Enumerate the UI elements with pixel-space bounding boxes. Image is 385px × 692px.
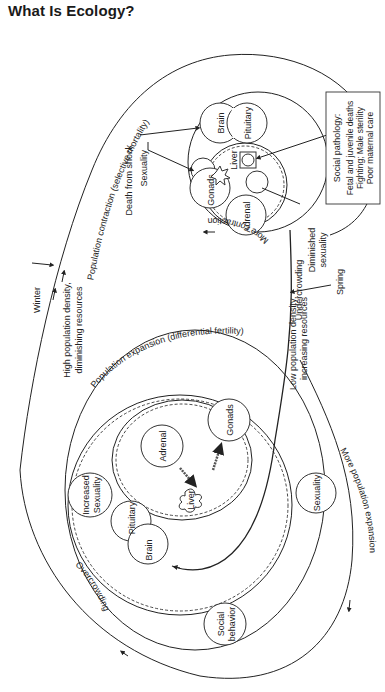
social-pathology-title: Social pathology:	[332, 114, 342, 183]
contraction-brain-pituitary: Brain Pituitary	[200, 103, 267, 143]
liver-label: Liver	[229, 150, 239, 170]
arrow-icon	[349, 600, 350, 610]
liver-to-gonads-arrow	[213, 448, 220, 470]
expansion-brain-label: Brain	[144, 539, 154, 560]
social-pathology-item: Poor maternal care	[365, 112, 375, 185]
diminished-sexuality-label-2: sexuality	[318, 232, 328, 268]
adrenal-to-liver-arrow	[180, 468, 193, 483]
arrow-icon	[122, 652, 128, 656]
expansion-sexuality-label: Sexuality	[312, 474, 322, 511]
sexuality-callout-label: Sexuality	[139, 150, 149, 187]
svg-text:Population expansion (differen: Population expansion (differential ferti…	[89, 325, 244, 389]
pituitary-label: Pituitary	[243, 106, 253, 139]
death-from-shock-pointer	[140, 128, 198, 135]
population-contraction-label: Population contraction (selective mortal…	[85, 117, 151, 280]
brain-label: Brain	[216, 112, 226, 133]
contraction-cycle: Brain Pituitary Gonads Adrenal Liver Dea…	[124, 92, 380, 272]
social-behavior-label-1: Social	[216, 612, 226, 637]
contraction-diminished-node	[246, 171, 268, 193]
increased-sexuality-label-1: Increased	[81, 475, 91, 515]
undercrowding-label: Undercrowding	[294, 260, 304, 321]
expansion-outer-arc	[20, 360, 353, 678]
winter-label: Winter	[32, 287, 42, 313]
more-expansion-label: More population expansion	[338, 446, 377, 553]
sexuality-pointer	[148, 142, 192, 170]
diminished-sexuality-label-1: Diminished	[307, 228, 317, 273]
social-pathology-pointer	[258, 135, 327, 158]
social-pathology-item: Fetal and juvenile deaths	[345, 101, 355, 196]
expansion-pituitary-label: Pituitary	[127, 501, 137, 534]
winter-pointer	[32, 263, 52, 265]
svg-text:More population expansion: More population expansion	[338, 446, 377, 553]
arrow-up-icon	[62, 272, 64, 282]
social-behavior-label-2: behavior	[227, 607, 237, 642]
expansion-gonads-label: Gonads	[225, 404, 235, 436]
population-expansion-label: Population expansion (differential ferti…	[89, 325, 244, 389]
expansion-adrenal-label: Adrenal	[158, 430, 168, 461]
diminished-pointer	[262, 188, 300, 204]
high-density-label-1: High population density,	[62, 282, 72, 377]
svg-text:Overcrowding: Overcrowding	[74, 559, 112, 612]
social-pathology-item: Fighting; Male sterility	[355, 106, 365, 189]
overcrowding-label: Overcrowding	[74, 559, 112, 612]
expansion-liver-label: Liver	[186, 490, 196, 510]
spring-label: Spring	[335, 269, 345, 295]
social-pathology-box: Social pathology: Fetal and juvenile dea…	[326, 92, 380, 204]
high-density-label-2: diminishing resources	[74, 286, 84, 374]
svg-text:Population contraction (select: Population contraction (selective mortal…	[85, 117, 151, 280]
expansion-brain-pituitary: Pituitary Brain	[111, 501, 168, 564]
increased-sexuality-label-2: Sexuality	[92, 476, 102, 513]
ecology-feedback-diagram: Brain Pituitary Gonads Adrenal Liver Dea…	[0, 0, 385, 692]
